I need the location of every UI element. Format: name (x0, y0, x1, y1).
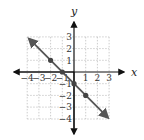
y-tick: −3 (59, 102, 73, 112)
y-tick: −2 (59, 91, 72, 101)
point-neg1-0 (60, 69, 65, 74)
y-tick: 3 (66, 32, 72, 42)
y-tick: −4 (59, 114, 73, 124)
point-0-neg1 (71, 81, 76, 86)
y-axis-label: y (70, 5, 78, 18)
x-tick: 3 (106, 73, 112, 83)
y-tick: 1 (66, 56, 72, 66)
point-neg2-1 (48, 58, 53, 63)
coordinate-plane-chart: x y −4 −3 −2 −1 1 2 3 3 2 1 −1 −2 −3 −4 (0, 0, 144, 140)
x-axis-label: x (131, 66, 138, 79)
x-tick: 1 (83, 73, 89, 83)
point-1-neg2 (83, 93, 88, 98)
y-tick: 2 (66, 44, 72, 54)
x-tick: 2 (95, 73, 101, 83)
line-y-eq-neg-x-minus-1-lower (74, 84, 108, 118)
